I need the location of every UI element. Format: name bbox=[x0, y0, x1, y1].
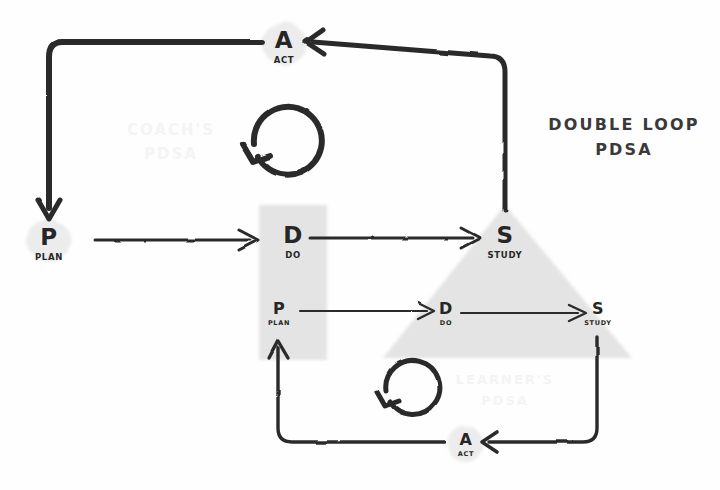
watermark-coach-line1: COACH'S bbox=[127, 121, 215, 139]
diagram-canvas: COACH'S PDSA LEARNER'S PDSA DOUBLE LOOP … bbox=[0, 0, 720, 490]
connector-study-to-act bbox=[313, 42, 505, 210]
watermark-learners-pdsa: LEARNER'S PDSA bbox=[442, 370, 568, 412]
inner-cycle-arrowhead bbox=[377, 392, 399, 406]
title-line-1: DOUBLE LOOP bbox=[548, 115, 700, 134]
act-bottom-blob bbox=[448, 425, 484, 461]
plan-blob bbox=[27, 218, 71, 262]
study-triangle bbox=[383, 205, 632, 358]
act-top-blob bbox=[262, 22, 306, 66]
outer-cycle-arrow-icon bbox=[254, 107, 322, 175]
title-line-2: PDSA bbox=[595, 140, 653, 159]
outer-cycle-arrowhead bbox=[243, 145, 270, 162]
pdsa-diagram bbox=[0, 0, 720, 490]
do-plan-rectangle bbox=[259, 205, 327, 360]
inner-cycle-arrow-icon bbox=[386, 360, 440, 414]
watermark-coach-line2: PDSA bbox=[144, 145, 198, 163]
watermark-learner-line2: PDSA bbox=[481, 393, 529, 408]
watermark-learner-line1: LEARNER'S bbox=[456, 372, 554, 387]
watermark-coachs-pdsa: COACH'S PDSA bbox=[108, 118, 234, 166]
page-title: DOUBLE LOOP PDSA bbox=[540, 113, 708, 163]
